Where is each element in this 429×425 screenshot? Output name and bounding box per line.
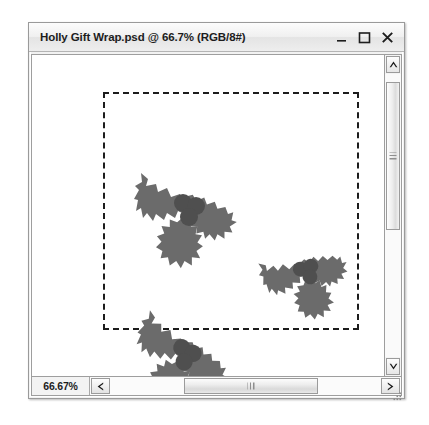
close-icon[interactable] <box>381 31 394 44</box>
title-bar[interactable]: Holly Gift Wrap.psd @ 66.7% (RGB/8#) <box>29 23 404 52</box>
page-title: Holly Gift Wrap.psd @ 66.7% (RGB/8#) <box>40 31 335 43</box>
horizontal-thumb-grip-icon <box>247 383 254 390</box>
horizontal-scrollbar[interactable] <box>90 377 401 395</box>
horizontal-scroll-track[interactable] <box>111 377 380 395</box>
minimize-icon[interactable] <box>335 31 348 44</box>
vertical-thumb-grip-icon <box>390 153 397 160</box>
image-canvas[interactable] <box>32 55 384 376</box>
canvas-row <box>31 54 402 376</box>
maximize-icon[interactable] <box>358 31 371 44</box>
zoom-level-field[interactable]: 66.67% <box>32 377 90 395</box>
vertical-scroll-thumb[interactable] <box>386 82 400 229</box>
resize-grip-icon[interactable] <box>393 387 402 396</box>
scroll-left-icon[interactable] <box>91 378 110 394</box>
status-bar: 66.67% <box>31 376 402 396</box>
vertical-scroll-track[interactable] <box>385 74 401 357</box>
holly-sprig-top-left[interactable] <box>132 165 250 277</box>
horizontal-scroll-thumb[interactable] <box>184 378 319 394</box>
scroll-up-icon[interactable] <box>386 56 400 73</box>
window-controls <box>335 31 400 44</box>
scroll-down-icon[interactable] <box>386 358 400 375</box>
window-body: 66.67% <box>29 52 404 398</box>
vertical-scrollbar[interactable] <box>384 55 401 376</box>
document-window: Holly Gift Wrap.psd @ 66.7% (RGB/8#) <box>28 22 405 399</box>
